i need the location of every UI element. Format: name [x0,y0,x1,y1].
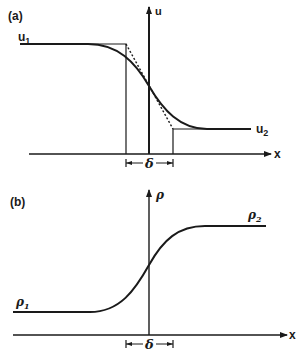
delta-label-a: δ [144,156,154,171]
density-profile-curve [13,226,266,312]
rho2-label: ρ2 [247,208,262,224]
rho1-label: ρ1 [15,295,30,311]
rho-axis-label: ρ [155,188,165,202]
u-axis-label: u [155,5,162,17]
x-axis-label-b: x [289,328,296,342]
panel-b-label: (b) [10,195,25,209]
step-upstream [20,44,126,154]
panel-a-label: (a) [8,9,23,23]
u1-label: u1 [18,30,30,46]
velocity-profile-curve [20,44,251,129]
x-axis-label-a: x [274,147,281,161]
panel-a: (a) x u u1 u2 δ [8,5,281,171]
panel-b: (b) x ρ ρ1 ρ2 δ [10,188,296,352]
u2-label: u2 [256,122,268,138]
step-downstream [173,129,251,154]
delta-label-b: δ [144,337,154,352]
shock-profile-diagram: (a) x u u1 u2 δ (b) x ρ [0,0,297,358]
